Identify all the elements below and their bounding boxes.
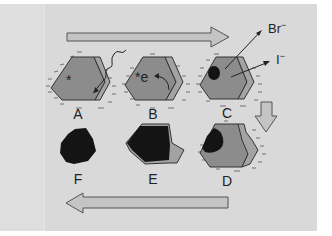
stage-label-f: F xyxy=(74,171,83,187)
stage-label-b: B xyxy=(148,106,157,122)
excited-electron-mark: *e xyxy=(135,69,148,85)
diagram-canvas: * A *e B xyxy=(0,0,332,236)
silver-speck xyxy=(208,66,220,80)
excited-site-mark: * xyxy=(66,72,72,88)
stage-label-e: E xyxy=(148,171,157,187)
stage-label-c: C xyxy=(222,105,232,121)
stage-label-d: D xyxy=(222,173,232,189)
panel-left-band xyxy=(0,4,44,231)
stage-label-a: A xyxy=(73,106,83,122)
